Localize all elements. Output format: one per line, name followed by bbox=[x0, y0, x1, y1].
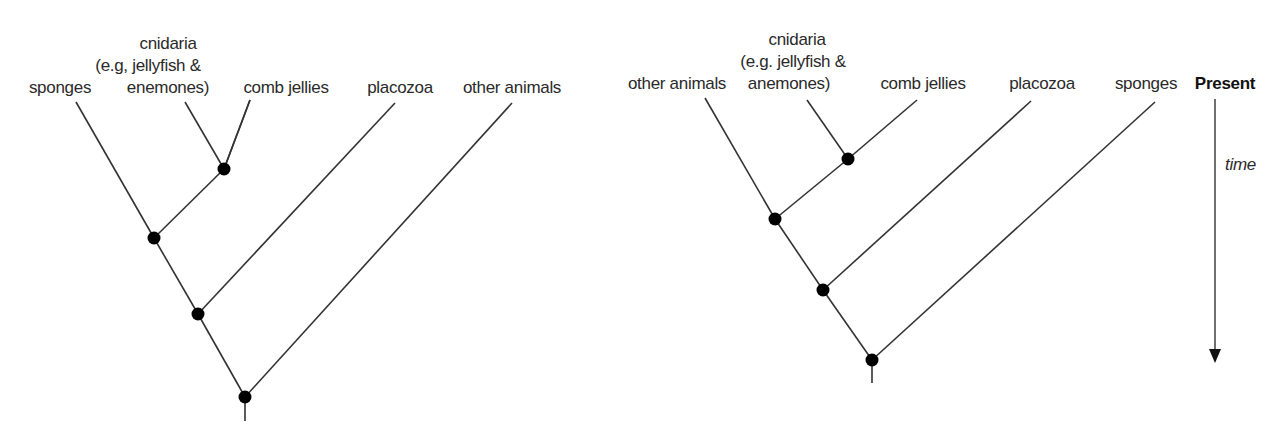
branch-cnidaria-comb-clade bbox=[154, 169, 224, 238]
branch-sponges bbox=[76, 102, 154, 238]
label-cnidaria-example-right: (e.g. jellyfish & bbox=[740, 51, 845, 72]
label-sponges-left: sponges bbox=[29, 77, 91, 98]
branch-internal-2 bbox=[823, 290, 872, 360]
node-dot bbox=[148, 232, 161, 245]
branch-internal-1 bbox=[154, 238, 198, 314]
label-present: Present bbox=[1195, 73, 1255, 94]
branch-cnidaria bbox=[807, 100, 848, 159]
left-tree-nodes bbox=[148, 163, 252, 404]
branch-placozoa bbox=[823, 101, 1031, 290]
label-cnidaria-example2-right: anemones) bbox=[748, 73, 830, 94]
node-dot bbox=[769, 213, 782, 226]
branch-internal-1 bbox=[775, 219, 823, 290]
right-tree-nodes bbox=[769, 153, 879, 367]
label-comb-jellies-right: comb jellies bbox=[880, 73, 965, 94]
branch-comb-jellies bbox=[848, 100, 917, 159]
branch-placozoa bbox=[198, 103, 395, 314]
branch-cnidaria bbox=[185, 102, 224, 169]
node-dot bbox=[239, 391, 252, 404]
right-tree-branches bbox=[705, 98, 1155, 383]
label-cnidaria-example-left: (e.g, jellyfish & bbox=[95, 55, 200, 76]
branch-sponges bbox=[872, 102, 1155, 360]
left-tree-branches bbox=[76, 100, 512, 421]
branch-internal-2 bbox=[198, 314, 245, 397]
node-dot bbox=[817, 284, 830, 297]
time-arrow bbox=[1209, 99, 1221, 363]
label-cnidaria-right: cnidaria bbox=[768, 29, 825, 50]
label-other-animals-right: other animals bbox=[628, 73, 726, 94]
branch-cnidaria-comb-clade bbox=[775, 159, 848, 219]
node-dot bbox=[842, 153, 855, 166]
node-dot bbox=[866, 354, 879, 367]
label-cnidaria-left: cnidaria bbox=[139, 33, 196, 54]
label-placozoa-right: placozoa bbox=[1009, 73, 1075, 94]
branch-other-animals bbox=[245, 103, 512, 397]
label-sponges-right: sponges bbox=[1115, 73, 1177, 94]
label-cnidaria-example2-left: enemones) bbox=[127, 77, 209, 98]
label-other-animals-left: other animals bbox=[463, 77, 561, 98]
label-time: time bbox=[1225, 154, 1256, 175]
label-comb-jellies-left: comb jellies bbox=[243, 77, 328, 98]
arrow-down-icon bbox=[1209, 349, 1221, 363]
node-dot bbox=[192, 308, 205, 321]
label-placozoa-left: placozoa bbox=[367, 77, 433, 98]
node-dot bbox=[218, 163, 231, 176]
branch-other-animals bbox=[705, 98, 775, 219]
